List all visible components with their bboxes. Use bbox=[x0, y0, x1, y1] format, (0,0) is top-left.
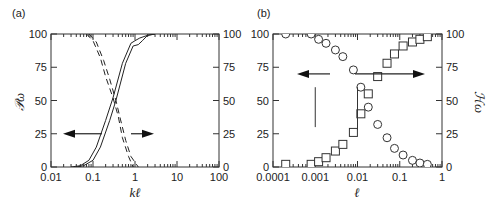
arrow-right-icon bbox=[413, 70, 425, 78]
arrow-left-icon bbox=[63, 130, 75, 138]
y-tick-label-right: 50 bbox=[223, 95, 235, 107]
y-tick-label-right: 25 bbox=[446, 128, 458, 140]
circle-marker bbox=[357, 83, 365, 91]
square-marker bbox=[322, 154, 330, 162]
circle-marker bbox=[408, 156, 416, 164]
x-tick-label: 0.01 bbox=[40, 171, 61, 183]
square-marker bbox=[408, 38, 416, 46]
y-tick-label-left: 50 bbox=[35, 95, 47, 107]
circle-marker bbox=[339, 53, 347, 61]
y-tick-label-left: 75 bbox=[35, 61, 47, 73]
x-tick-label: 0.0001 bbox=[256, 171, 290, 183]
square-marker bbox=[364, 90, 372, 98]
y-tick-label-right: 100 bbox=[223, 28, 241, 40]
circle-marker bbox=[349, 66, 357, 74]
panel-b-ylabel: ℋω bbox=[472, 91, 487, 113]
circle-marker bbox=[364, 103, 372, 111]
x-tick-label: 0.001 bbox=[301, 171, 329, 183]
circle-marker bbox=[307, 30, 315, 38]
y-tick-label-right: 75 bbox=[223, 61, 235, 73]
circle-marker bbox=[416, 159, 424, 167]
y-tick-label-left: 25 bbox=[35, 128, 47, 140]
circle-marker bbox=[383, 134, 391, 142]
x-tick-label: 0.01 bbox=[347, 171, 368, 183]
x-tick-label: 1 bbox=[439, 171, 445, 183]
y-tick-label-right: 75 bbox=[446, 61, 458, 73]
y-tick-label-right: 25 bbox=[223, 128, 235, 140]
square-marker bbox=[357, 110, 365, 118]
panel-b-plot: 002525505075751001000.00010.0010.010.11 bbox=[251, 28, 465, 183]
y-tick-label-left: 100 bbox=[29, 28, 47, 40]
y-tick-label-right: 0 bbox=[446, 161, 452, 173]
x-tick-label: 0.1 bbox=[85, 171, 100, 183]
circle-marker bbox=[315, 35, 323, 43]
x-tick-label: 0.1 bbox=[392, 171, 407, 183]
square-marker bbox=[315, 158, 323, 166]
square-marker bbox=[383, 59, 391, 67]
panel-b-xlabel: ℓ bbox=[354, 185, 360, 200]
square-marker bbox=[399, 42, 407, 50]
panel-b-label: (b) bbox=[257, 7, 270, 19]
x-tick-label: 100 bbox=[210, 171, 228, 183]
panel-a-xlabel: kℓ bbox=[129, 185, 141, 200]
arrow-left-icon bbox=[297, 70, 309, 78]
figure: (a) (b) 002525505075751001000.010.111010… bbox=[0, 0, 487, 208]
circle-marker bbox=[331, 46, 339, 54]
y-tick-label-right: 50 bbox=[446, 95, 458, 107]
arrow-right-icon bbox=[142, 130, 154, 138]
panel-a-ylabel: 𝒫ω bbox=[12, 93, 27, 111]
curve-solid-1 bbox=[71, 34, 155, 167]
x-tick-label: 1 bbox=[132, 171, 138, 183]
panel-a-label: (a) bbox=[12, 7, 25, 19]
plot-frame bbox=[51, 34, 219, 167]
y-tick-label-left: 50 bbox=[257, 95, 269, 107]
circle-marker bbox=[390, 144, 398, 152]
circle-marker bbox=[322, 39, 330, 47]
square-marker bbox=[349, 128, 357, 136]
circle-marker bbox=[399, 151, 407, 159]
panel-a-plot: 002525505075751001000.010.1110100 bbox=[29, 28, 242, 183]
y-tick-label-right: 100 bbox=[446, 28, 464, 40]
square-marker bbox=[331, 147, 339, 155]
square-marker bbox=[390, 50, 398, 58]
circle-marker bbox=[282, 30, 290, 38]
y-tick-label-left: 100 bbox=[251, 28, 269, 40]
square-marker bbox=[416, 35, 424, 43]
y-tick-label-left: 75 bbox=[257, 61, 269, 73]
y-tick-label-left: 25 bbox=[257, 128, 269, 140]
x-tick-label: 10 bbox=[171, 171, 183, 183]
circle-marker bbox=[374, 120, 382, 128]
square-marker bbox=[339, 140, 347, 148]
